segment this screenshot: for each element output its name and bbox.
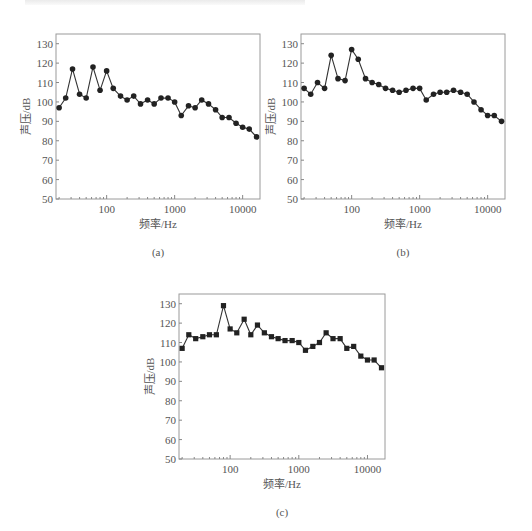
data-point-square bbox=[207, 332, 212, 337]
data-point-square bbox=[255, 322, 260, 327]
data-point-square bbox=[248, 332, 253, 337]
x-tick-label: 100 bbox=[222, 463, 239, 475]
data-point-square bbox=[330, 336, 335, 341]
plot-frame bbox=[179, 294, 385, 459]
x-tick-label: 10000 bbox=[354, 463, 382, 475]
y-tick-label: 120 bbox=[160, 317, 177, 329]
data-point-square bbox=[262, 330, 267, 335]
data-point-square bbox=[180, 346, 185, 351]
y-tick-label: 60 bbox=[165, 434, 177, 446]
data-point-square bbox=[338, 336, 343, 341]
y-axis-label: 声压/dB bbox=[143, 358, 156, 396]
y-tick-label: 50 bbox=[165, 453, 177, 465]
y-tick-label: 90 bbox=[165, 375, 177, 387]
data-point-square bbox=[379, 365, 384, 370]
data-point-square bbox=[269, 334, 274, 339]
x-tick-label: 1000 bbox=[288, 463, 311, 475]
data-point-square bbox=[228, 326, 233, 331]
data-point-square bbox=[214, 332, 219, 337]
data-point-square bbox=[276, 336, 281, 341]
y-tick-label: 80 bbox=[165, 395, 177, 407]
data-point-square bbox=[358, 354, 363, 359]
data-point-square bbox=[365, 357, 370, 362]
data-point-square bbox=[242, 317, 247, 322]
data-point-square bbox=[193, 336, 198, 341]
data-point-square bbox=[351, 344, 356, 349]
chart-c: 5060708090100110120130100100010000频率/Hz声… bbox=[0, 0, 532, 531]
y-tick-label: 100 bbox=[160, 356, 177, 368]
data-point-square bbox=[372, 357, 377, 362]
data-point-square bbox=[282, 338, 287, 343]
data-point-square bbox=[221, 303, 226, 308]
y-tick-label: 70 bbox=[165, 414, 177, 426]
y-tick-label: 130 bbox=[160, 298, 177, 310]
x-axis-label: 频率/Hz bbox=[263, 477, 301, 490]
data-point-square bbox=[344, 346, 349, 351]
data-point-square bbox=[296, 340, 301, 345]
data-point-square bbox=[317, 340, 322, 345]
data-point-square bbox=[200, 334, 205, 339]
chart-caption: (c) bbox=[276, 506, 289, 519]
y-tick-label: 110 bbox=[160, 337, 177, 349]
data-point-square bbox=[310, 344, 315, 349]
data-point-square bbox=[290, 338, 295, 343]
data-point-square bbox=[234, 330, 239, 335]
data-point-square bbox=[303, 348, 308, 353]
data-point-square bbox=[324, 330, 329, 335]
data-point-square bbox=[186, 332, 191, 337]
